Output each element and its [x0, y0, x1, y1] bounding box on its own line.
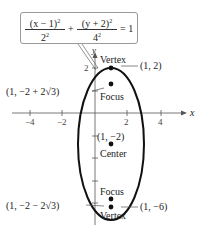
top-focus-point — [109, 82, 114, 87]
center-label: Center — [100, 148, 127, 159]
center-coord: (1, −2) — [97, 131, 124, 143]
equals-one: = 1 — [120, 23, 133, 34]
bottom-focus-coord: (1, −2 − 2√3) — [6, 200, 59, 212]
fraction-y-term: (y + 2)2 42 — [77, 16, 117, 44]
x-axis-arrow-icon — [181, 111, 187, 116]
bottom-vertex-label: Vertex — [100, 210, 126, 221]
top-vertex-label: Vertex — [100, 54, 126, 65]
fraction-x-term: (x − 1)2 22 — [25, 16, 65, 44]
top-focus-coord: (1, −2 + 2√3) — [6, 86, 59, 98]
center-point — [109, 142, 114, 147]
plus-sign: + — [68, 23, 74, 34]
bottom-vertex-point — [109, 205, 114, 210]
x-tick-label: −4 — [25, 117, 35, 127]
equation-box: (x − 1)2 22 + (y + 2)2 42 = 1 — [20, 12, 138, 44]
x-tick-label: 4 — [158, 117, 163, 127]
top-vertex-point — [109, 66, 114, 71]
x-tick-label: 2 — [124, 117, 129, 127]
top-vertex-coord: (1, 2) — [140, 60, 162, 72]
y-tick-label: 2 — [84, 63, 89, 73]
x-tick-label: −2 — [57, 117, 67, 127]
top-focus-label: Focus — [100, 91, 124, 102]
bottom-focus-label: Focus — [100, 186, 124, 197]
bottom-vertex-coord: (1, −6) — [140, 201, 167, 213]
bottom-focus-point — [109, 197, 114, 202]
x-axis-label: x — [189, 107, 195, 118]
y-axis-label: y — [91, 45, 96, 55]
